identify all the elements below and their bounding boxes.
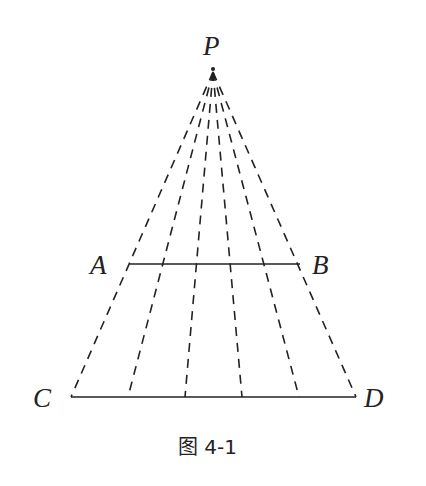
label-c: C bbox=[33, 383, 52, 413]
dashed-ray bbox=[213, 72, 242, 397]
dashed-ray bbox=[71, 72, 213, 397]
label-a: A bbox=[88, 250, 107, 280]
label-d: D bbox=[363, 383, 384, 413]
dashed-ray bbox=[213, 72, 299, 397]
dashed-ray bbox=[185, 72, 213, 397]
diagram-canvas: P A B C D 图 4-1 bbox=[0, 0, 426, 486]
label-b: B bbox=[312, 250, 329, 280]
apex-point-p bbox=[211, 67, 215, 71]
label-p: P bbox=[202, 31, 220, 61]
dashed-ray bbox=[213, 72, 356, 397]
dashed-ray bbox=[128, 72, 213, 397]
dashed-rays bbox=[71, 72, 356, 397]
figure-caption: 图 4-1 bbox=[178, 435, 237, 459]
